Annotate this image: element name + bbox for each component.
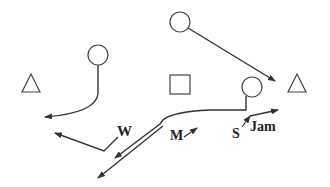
circle-left-player [88,45,108,65]
m-arrow [184,128,197,137]
jam-arrow [250,110,278,116]
circle-right-player [242,77,262,97]
left-triangle-player [22,74,40,92]
label-w: W [117,124,132,139]
circle-top-player [170,12,190,32]
label-m: M [170,129,183,143]
w-route [55,133,118,151]
center-square-player [170,75,190,94]
label-s: S [232,127,240,141]
s-arrow [242,116,250,127]
label-jam: Jam [250,120,276,134]
left-circle-route [45,65,98,117]
right-triangle-player [288,74,306,92]
play-diagram [0,0,330,187]
top-circle-route [188,28,275,81]
